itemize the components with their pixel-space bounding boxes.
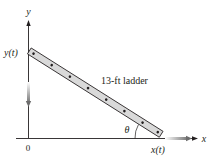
ladder-length-label: 13-ft ladder	[101, 75, 149, 86]
x-axis-arrow-icon	[192, 136, 198, 140]
down-motion-arrow-icon	[26, 82, 31, 107]
y-axis-label: y	[25, 6, 31, 17]
angle-arc	[135, 125, 139, 139]
x-of-t-label: x(t)	[150, 144, 166, 156]
y-of-t-label: y(t)	[3, 47, 19, 59]
ladder	[27, 48, 163, 137]
right-motion-arrow-icon	[165, 136, 192, 141]
angle-label: θ	[125, 124, 130, 135]
origin-label: 0	[26, 143, 31, 153]
y-axis-arrow-icon	[26, 20, 30, 26]
y-axis	[26, 20, 30, 138]
x-axis-label: x	[201, 133, 207, 144]
ladder-diagram: y x 0 θ y(t) x(t) 13-ft ladder	[0, 0, 218, 159]
